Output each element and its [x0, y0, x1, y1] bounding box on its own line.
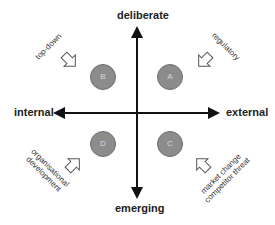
- arrow-organisational-icon: [62, 153, 85, 176]
- axis-label-bottom: emerging: [115, 202, 165, 214]
- axis-label-right: external: [226, 106, 268, 118]
- quadrant-circle-d: D: [90, 131, 116, 157]
- quadrant-circle-b: B: [90, 64, 116, 90]
- quadrant-circle-a: A: [157, 64, 183, 90]
- arrow-regulatory-icon: [193, 49, 216, 72]
- arrow-market-icon: [191, 153, 214, 176]
- quadrant-circle-c: C: [157, 131, 183, 157]
- arrow-top-down-icon: [58, 49, 81, 72]
- axis-label-top: deliberate: [117, 9, 169, 21]
- axis-label-left: internal: [14, 106, 54, 118]
